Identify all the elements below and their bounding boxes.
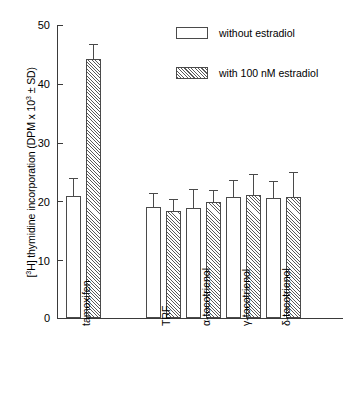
errorbar-cap-tamoxifen-with-estradiol: [89, 44, 98, 45]
errorbar-stem-delta-tocotrienol-with-estradiol: [293, 172, 294, 197]
errorbar-cap-alpha-tocotrienol-without-estradiol: [189, 189, 198, 190]
legend-swatch-open-icon: [176, 27, 208, 39]
errorbar-cap-gamma-tocotrienol-without-estradiol: [229, 180, 238, 181]
bar-trf-without-estradiol: [146, 207, 161, 318]
x-tick-label-tamoxifen: tamoxifen: [80, 280, 92, 326]
errorbar-stem-trf-without-estradiol: [153, 193, 154, 207]
errorbar-stem-alpha-tocotrienol-without-estradiol: [193, 189, 194, 208]
errorbar-cap-gamma-tocotrienol-with-estradiol: [249, 174, 258, 175]
legend-item-with-estradiol: with 100 nM estradiol: [176, 66, 346, 80]
x-tick-label-alpha-tocotrienol: α-tocotrienol: [200, 268, 212, 326]
x-tick-label-gamma-tocotrienol: γ-tocotrienol: [240, 269, 252, 326]
bar-delta-tocotrienol-without-estradiol: [266, 198, 281, 318]
errorbar-stem-trf-with-estradiol: [173, 199, 174, 211]
legend-swatch-hatched-icon: [176, 67, 208, 79]
bar-chart-figure: [3H] thymidine incorporation (DPM x 103 …: [0, 0, 351, 401]
errorbar-stem-alpha-tocotrienol-with-estradiol: [213, 190, 214, 202]
bar-gamma-tocotrienol-without-estradiol: [226, 197, 241, 318]
bar-alpha-tocotrienol-without-estradiol: [186, 208, 201, 318]
errorbar-cap-trf-with-estradiol: [169, 199, 178, 200]
errorbar-cap-delta-tocotrienol-with-estradiol: [289, 172, 298, 173]
errorbar-cap-alpha-tocotrienol-with-estradiol: [209, 190, 218, 191]
errorbar-stem-delta-tocotrienol-without-estradiol: [273, 181, 274, 198]
errorbar-stem-gamma-tocotrienol-without-estradiol: [233, 180, 234, 197]
errorbar-cap-tamoxifen-without-estradiol: [69, 178, 78, 179]
errorbar-stem-tamoxifen-with-estradiol: [93, 44, 94, 59]
errorbar-stem-gamma-tocotrienol-with-estradiol: [253, 174, 254, 195]
chart-legend: without estradiol with 100 nM estradiol: [176, 26, 346, 106]
x-tick-label-delta-tocotrienol: δ-tocotrienol: [280, 268, 292, 326]
bar-trf-with-estradiol: [166, 211, 181, 318]
legend-label-without-estradiol: without estradiol: [219, 27, 295, 39]
errorbar-stem-tamoxifen-without-estradiol: [73, 178, 74, 196]
x-tick-label-trf: TRF: [160, 306, 172, 326]
errorbar-cap-trf-without-estradiol: [149, 193, 158, 194]
legend-item-without-estradiol: without estradiol: [176, 26, 346, 40]
errorbar-cap-delta-tocotrienol-without-estradiol: [269, 181, 278, 182]
legend-label-with-estradiol: with 100 nM estradiol: [219, 67, 318, 79]
bar-tamoxifen-without-estradiol: [66, 196, 81, 318]
